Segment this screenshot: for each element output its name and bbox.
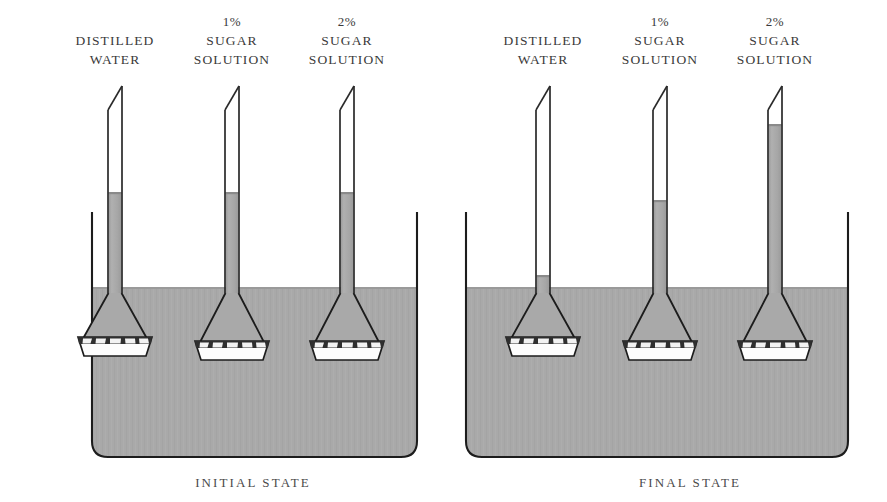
semipermeable-membrane — [78, 337, 152, 356]
tube-label-percent: 1% — [651, 14, 670, 29]
tube-meniscus — [537, 275, 550, 277]
tube-label-line1: DISTILLED — [504, 33, 583, 48]
tube-label-percent: 1% — [223, 14, 242, 29]
beaker-water-initial — [92, 287, 417, 462]
tube-liquid — [654, 200, 667, 293]
tube-label-line2: WATER — [518, 52, 569, 67]
tube-liquid — [109, 192, 122, 293]
tube-label-line2: SOLUTION — [194, 52, 270, 67]
osmosis-diagram: DISTILLED WATER 1% SUGAR SOLUTION — [0, 0, 887, 502]
tube-label-line1: DISTILLED — [76, 33, 155, 48]
tube-meniscus — [769, 124, 782, 126]
tube-meniscus — [226, 192, 239, 194]
tube-meniscus — [654, 200, 667, 202]
tube-label-line1: SUGAR — [206, 33, 257, 48]
tube-label-line2: SOLUTION — [622, 52, 698, 67]
tube-label-percent: 2% — [338, 14, 357, 29]
tube-label-percent: 2% — [766, 14, 785, 29]
tube-label-line1: SUGAR — [634, 33, 685, 48]
semipermeable-membrane — [623, 341, 697, 360]
semipermeable-membrane — [310, 341, 384, 360]
tube-label-line2: SOLUTION — [309, 52, 385, 67]
semipermeable-membrane — [738, 341, 812, 360]
diagram-canvas: DISTILLED WATER 1% SUGAR SOLUTION — [0, 0, 887, 502]
tube-liquid — [226, 192, 239, 293]
tube-label-line1: SUGAR — [749, 33, 800, 48]
tube-liquid — [341, 192, 354, 293]
caption-initial-state: INITIAL STATE — [195, 475, 311, 490]
tube-meniscus — [109, 192, 122, 194]
tube-label-line2: WATER — [90, 52, 141, 67]
semipermeable-membrane — [195, 341, 269, 360]
tube-label-line1: SUGAR — [321, 33, 372, 48]
tube-meniscus — [341, 192, 354, 194]
semipermeable-membrane — [506, 337, 580, 356]
tube-liquid — [769, 124, 782, 293]
caption-final-state: FINAL STATE — [639, 475, 741, 490]
tube-label-line2: SOLUTION — [737, 52, 813, 67]
tube-liquid — [537, 275, 550, 293]
